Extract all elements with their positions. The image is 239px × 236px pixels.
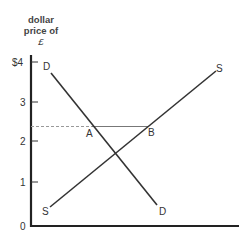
supply-label-bottom: S	[42, 206, 49, 217]
supply-curve	[50, 71, 216, 207]
y-tick-label-4: $4	[12, 57, 24, 68]
y-tick-label-2: 2	[20, 136, 26, 147]
demand-label-bottom: D	[159, 206, 166, 217]
point-b-label: B	[148, 127, 155, 138]
demand-curve	[51, 73, 157, 205]
supply-label-top: S	[216, 63, 223, 74]
y-tick-label-0: 0	[20, 221, 26, 232]
y-tick-label-1: 1	[20, 177, 26, 188]
demand-label-top: D	[43, 61, 50, 72]
supply-demand-chart: $4 3 2 1 0 D D S S A B	[0, 0, 239, 236]
y-tick-label-3: 3	[20, 97, 26, 108]
point-a-label: A	[86, 128, 93, 139]
